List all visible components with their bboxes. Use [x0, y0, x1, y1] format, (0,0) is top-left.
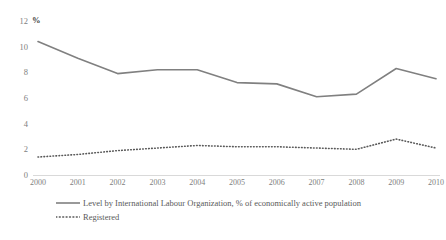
legend-label-ilo: Level by International Labour Organizati… — [83, 198, 361, 208]
series-line-ilo — [38, 42, 436, 97]
legend-item-ilo: Level by International Labour Organizati… — [56, 196, 361, 210]
legend-swatch-solid-line-icon — [56, 199, 80, 207]
line-chart: % 024681012 2000200120022003200420052006… — [0, 0, 446, 240]
series-line-registered — [38, 139, 436, 157]
legend-label-registered: Registered — [83, 212, 119, 222]
legend-item-registered: Registered — [56, 210, 361, 224]
chart-legend: Level by International Labour Organizati… — [56, 196, 361, 224]
legend-swatch-dotted-line-icon — [56, 213, 80, 221]
